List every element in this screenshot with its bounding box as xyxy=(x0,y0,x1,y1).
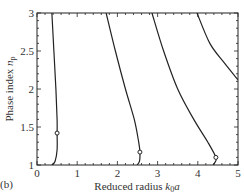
x-axis-label: Reduced radius k0a xyxy=(94,180,180,194)
x-tick-labels: 012345 xyxy=(34,167,241,179)
y-tick-label: 1.5 xyxy=(20,121,34,133)
y-tick-label: 2 xyxy=(29,83,35,95)
curve-mode-4 xyxy=(197,13,238,80)
x-tick-label: 5 xyxy=(235,167,241,179)
cutoff-marker xyxy=(214,155,218,159)
plot-area xyxy=(52,13,238,165)
y-tick-label: 1 xyxy=(29,159,35,171)
y-tick-labels: 11.522.53 xyxy=(20,7,34,171)
panel-label: (b) xyxy=(0,178,13,191)
y-tick-label: 3 xyxy=(29,7,35,19)
x-tick-label: 3 xyxy=(155,167,161,179)
x-tick-label: 2 xyxy=(115,167,121,179)
cutoff-marker xyxy=(138,150,142,154)
y-tick-label: 2.5 xyxy=(20,45,34,57)
chart-canvas: 012345 11.522.53 (b) Reduced radius k0a … xyxy=(0,0,244,196)
curve-mode-2 xyxy=(106,13,140,165)
x-tick-label: 4 xyxy=(195,167,201,179)
curve-mode-1 xyxy=(52,13,57,165)
x-tick-label: 1 xyxy=(74,167,80,179)
cutoff-marker xyxy=(55,131,59,135)
x-tick-label: 0 xyxy=(34,167,40,179)
y-axis-label: Phase index np xyxy=(3,56,17,121)
